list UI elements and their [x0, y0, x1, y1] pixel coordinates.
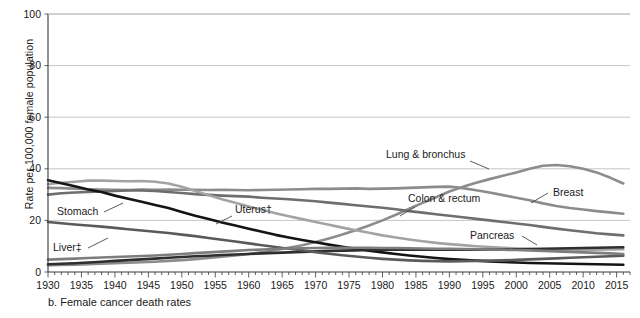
leader-line-pancreas [522, 236, 537, 245]
x-tick-1975: 1975 [337, 279, 361, 290]
x-tick-1980: 1980 [371, 279, 395, 290]
plot-series-group [48, 165, 623, 265]
y-tick-0: 0 [35, 266, 41, 278]
x-tick-2005: 2005 [538, 279, 562, 290]
series-label-pancreas: Pancreas [470, 229, 514, 241]
x-tick-1995: 1995 [471, 279, 495, 290]
x-tick-1950: 1950 [170, 279, 194, 290]
x-tick-1985: 1985 [404, 279, 428, 290]
x-tick-1945: 1945 [137, 279, 161, 290]
leader-line-lung [470, 161, 489, 169]
chart-container: 1930193519401945195019551960196519701975… [0, 0, 640, 318]
leader-line-stomach [104, 203, 123, 212]
x-tick-2010: 2010 [571, 279, 595, 290]
chart-caption: b. Female cancer death rates [48, 296, 191, 308]
series-line-stomach [48, 180, 623, 265]
x-axis-ticks: 1930193519401945195019551960196519701975… [36, 272, 630, 290]
series-label-stomach: Stomach [57, 205, 99, 217]
x-tick-2015: 2015 [605, 279, 629, 290]
line-chart: 1930193519401945195019551960196519701975… [0, 0, 640, 290]
x-tick-1955: 1955 [204, 279, 228, 290]
series-label-colon: Colon & rectum [408, 192, 481, 204]
x-tick-1940: 1940 [103, 279, 127, 290]
leader-line-liver [88, 238, 108, 248]
series-label-uterus: Uterus† [235, 203, 272, 215]
series-label-lung: Lung & bronchus [386, 148, 465, 160]
axes-group [48, 14, 630, 272]
x-tick-1935: 1935 [70, 279, 94, 290]
y-axis-title: Rate per 100,000 female population [23, 0, 35, 249]
series-label-liver: Liver‡ [53, 241, 82, 253]
x-tick-1970: 1970 [304, 279, 328, 290]
series-label-breast: Breast [553, 186, 583, 198]
x-tick-1965: 1965 [270, 279, 294, 290]
x-tick-2000: 2000 [505, 279, 529, 290]
x-tick-1990: 1990 [438, 279, 462, 290]
x-tick-1960: 1960 [237, 279, 261, 290]
x-tick-1930: 1930 [36, 279, 60, 290]
